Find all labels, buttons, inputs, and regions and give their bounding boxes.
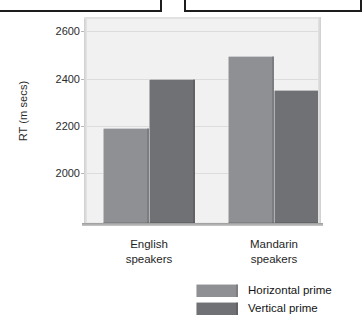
legend-swatch-highlight-top — [196, 284, 238, 285]
plot-area — [84, 17, 321, 223]
y-axis-tick-labels: 2000220024002600 — [38, 0, 80, 324]
bar-highlight-left — [274, 90, 275, 223]
bar-shade-right — [193, 79, 195, 223]
legend-swatch-shade-right — [236, 284, 238, 297]
bar-highlight-left — [228, 56, 229, 223]
x-axis-group-label-line: English — [89, 237, 209, 252]
x-axis-group-label-line: Mandarin — [214, 237, 334, 252]
x-axis-group-label: Englishspeakers — [89, 237, 209, 267]
gridline — [84, 31, 321, 32]
y-axis-tick-label: 2200 — [40, 121, 80, 131]
legend-label: Horizontal prime — [248, 284, 332, 296]
bar-english-horizontal — [103, 128, 149, 223]
legend-swatch — [196, 302, 238, 315]
bar-highlight-top — [274, 90, 320, 91]
plot-frame-right — [318, 17, 321, 223]
legend-swatch-highlight-left — [196, 302, 197, 315]
legend-item: Horizontal prime — [196, 281, 332, 299]
gridline — [84, 79, 321, 80]
legend-swatch-highlight-top — [196, 302, 238, 303]
y-axis-tick-label: 2600 — [40, 26, 80, 36]
plot-frame-top — [84, 17, 321, 19]
chart-legend: Horizontal primeVertical prime — [196, 281, 332, 317]
bar-highlight-left — [149, 79, 150, 223]
legend-swatch-shade-right — [236, 302, 238, 315]
y-axis-tick-label: 2400 — [40, 74, 80, 84]
plot-frame-left — [84, 17, 87, 223]
bar-mandarin-vertical — [274, 90, 320, 223]
bar-highlight-left — [103, 128, 104, 223]
legend-swatch-highlight-left — [196, 284, 197, 297]
legend-item: Vertical prime — [196, 299, 332, 317]
bar-highlight-top — [103, 128, 149, 129]
legend-label: Vertical prime — [248, 302, 318, 314]
x-axis-group-label-line: speakers — [214, 252, 334, 267]
y-axis-title: RT (m secs) — [17, 66, 29, 156]
legend-swatch — [196, 284, 238, 297]
x-axis-group-label-line: speakers — [89, 252, 209, 267]
bar-mandarin-horizontal — [228, 56, 274, 223]
bar-english-vertical — [149, 79, 195, 223]
bar-highlight-top — [228, 56, 274, 57]
y-axis-tick-label: 2000 — [40, 168, 80, 178]
x-axis-group-label: Mandarinspeakers — [214, 237, 334, 267]
x-axis-line — [82, 223, 323, 226]
bar-highlight-top — [149, 79, 195, 80]
